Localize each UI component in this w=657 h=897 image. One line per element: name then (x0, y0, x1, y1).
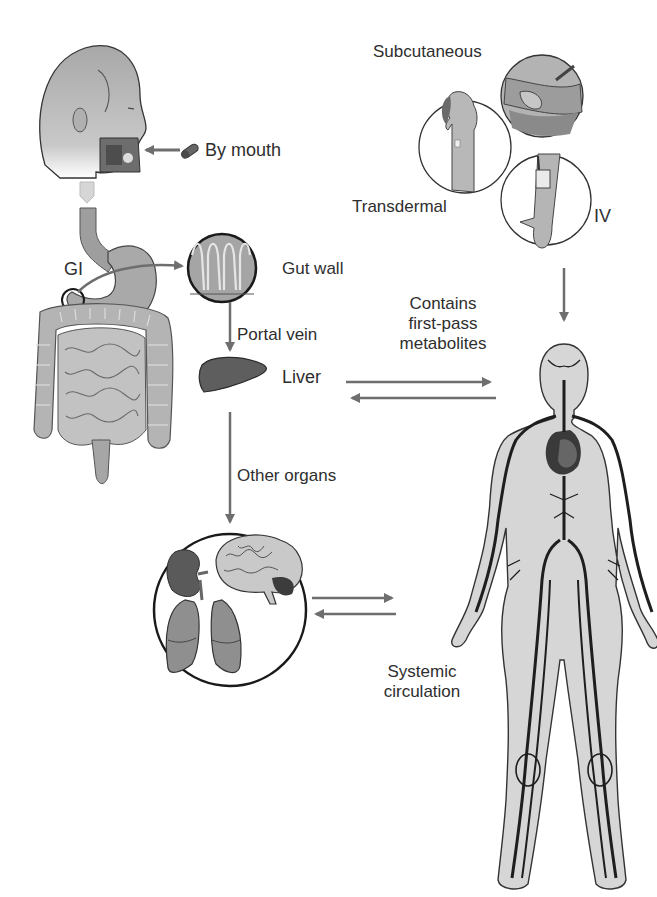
drug-distribution-diagram: By mouth GI Gut wall Portal vein Liver O… (0, 0, 657, 897)
other-organs-illustration (154, 534, 306, 686)
systemic-circulation-label: Systemic circulation (372, 662, 472, 702)
first-pass-line-1: Contains (368, 294, 518, 314)
systemic-circulation-body (452, 344, 657, 889)
iv-label: IV (594, 206, 611, 226)
transdermal-label: Transdermal (352, 197, 447, 217)
portal-vein-label: Portal vein (237, 325, 317, 345)
first-pass-line-3: metabolites (368, 334, 518, 354)
gut-wall-label: Gut wall (282, 259, 343, 279)
liver-illustration (199, 357, 266, 392)
diagram-illustration (0, 0, 657, 897)
head-illustration (40, 46, 146, 178)
by-mouth-label: By mouth (205, 140, 281, 160)
systemic-line-1: Systemic (372, 662, 472, 682)
subcutaneous-label: Subcutaneous (373, 42, 482, 62)
pill-icon (180, 143, 200, 160)
subcutaneous-illustration (501, 55, 583, 137)
gi-label: GI (64, 259, 83, 279)
systemic-line-2: circulation (372, 682, 472, 702)
other-organs-label: Other organs (237, 466, 336, 486)
swallow-arrow-icon (80, 182, 94, 203)
transdermal-illustration (419, 92, 511, 193)
iv-illustration (501, 154, 591, 248)
gut-wall-illustration (188, 234, 256, 302)
gi-tract-illustration (34, 208, 173, 484)
first-pass-label: Contains first-pass metabolites (368, 294, 518, 354)
liver-label: Liver (282, 367, 321, 387)
first-pass-line-2: first-pass (368, 314, 518, 334)
